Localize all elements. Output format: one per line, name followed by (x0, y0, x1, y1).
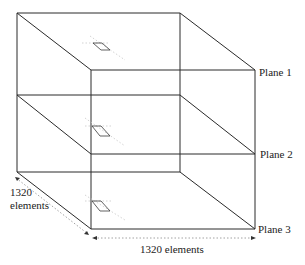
plane-3 (17, 172, 255, 229)
plane-2 (17, 95, 255, 154)
plane-2-label: Plane 2 (260, 148, 293, 160)
plane-1-label: Plane 1 (259, 66, 292, 78)
cell-plane-1 (82, 36, 125, 60)
depth-dimension-label: 1320 elements (10, 186, 49, 212)
width-dimension-arrow (92, 236, 256, 240)
plane-1 (17, 13, 255, 70)
depth-dimension-unit: elements (10, 199, 49, 212)
plane-3-label: Plane 3 (258, 223, 291, 235)
depth-dimension-value: 1320 (10, 186, 49, 199)
width-dimension-label: 1320 elements (140, 243, 204, 255)
